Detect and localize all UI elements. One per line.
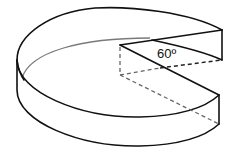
left-side-edge [17, 60, 24, 80]
angle-label: 60º [157, 46, 176, 61]
bottom-rim-arc [17, 60, 219, 146]
radius-upper-top [120, 30, 222, 45]
hidden-radius-upper-bottom [160, 60, 222, 68]
hidden-radius-upper-bottom-inner [120, 68, 160, 75]
cut-cylinder-diagram: 60º [0, 0, 230, 153]
